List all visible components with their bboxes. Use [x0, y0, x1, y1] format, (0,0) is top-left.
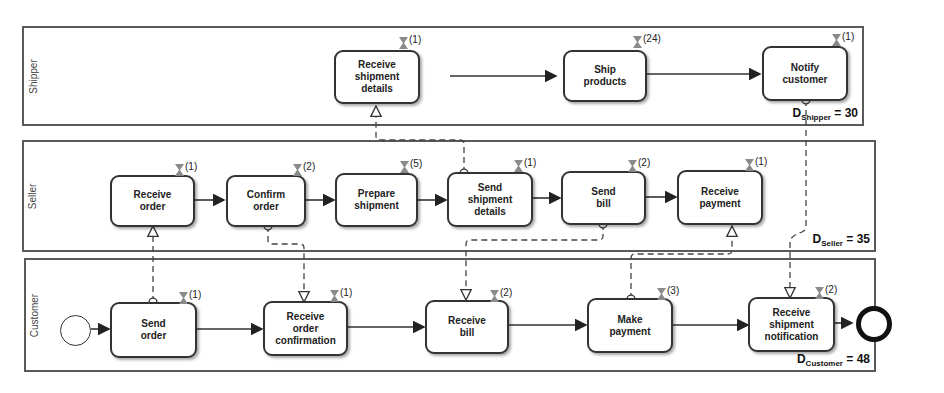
- end-event[interactable]: [856, 306, 892, 342]
- task-make-payment[interactable]: Make payment: [587, 298, 673, 353]
- timer-receive-shipment-notification: (2): [815, 287, 837, 299]
- hourglass-icon: [399, 37, 408, 49]
- timer-receive-payment: (1): [745, 159, 767, 171]
- hourglass-icon: [745, 159, 754, 171]
- hourglass-icon: [330, 290, 339, 302]
- hourglass-icon: [832, 34, 841, 46]
- timer-confirm-order: (2): [293, 164, 315, 176]
- task-ship-products[interactable]: Ship products: [563, 50, 647, 102]
- task-send-order[interactable]: Send order: [110, 302, 197, 358]
- timer-make-payment: (3): [657, 288, 679, 300]
- timer-send-bill: (2): [628, 160, 650, 172]
- task-receive-order[interactable]: Receive order: [110, 175, 195, 227]
- hourglass-icon: [514, 160, 523, 172]
- hourglass-icon: [815, 287, 824, 299]
- task-receive-order-confirmation[interactable]: Receive order confirmation: [263, 301, 348, 356]
- task-receive-payment[interactable]: Receive payment: [677, 170, 763, 225]
- start-event[interactable]: [60, 315, 91, 346]
- task-confirm-order[interactable]: Confirm order: [226, 175, 306, 227]
- timer-receive-order: (1): [175, 164, 197, 176]
- timer-receive-order-confirmation: (1): [330, 290, 352, 302]
- hourglass-icon: [633, 36, 642, 48]
- hourglass-icon: [179, 292, 188, 304]
- hourglass-icon: [293, 164, 302, 176]
- timer-ship-products: (24): [633, 36, 661, 48]
- hourglass-icon: [400, 161, 409, 173]
- timer-send-shipment-details: (1): [514, 160, 536, 172]
- hourglass-icon: [490, 290, 499, 302]
- hourglass-icon: [628, 160, 637, 172]
- task-receive-bill[interactable]: Receive bill: [425, 300, 509, 354]
- task-prepare-shipment[interactable]: Prepare shipment: [335, 173, 418, 227]
- timer-notify-customer: (1): [832, 34, 854, 46]
- task-receive-shipment-details[interactable]: Receive shipment details: [334, 50, 420, 104]
- timer-receive-shipment-details: (1): [399, 37, 421, 49]
- task-notify-customer[interactable]: Notify customer: [762, 46, 848, 101]
- hourglass-icon: [657, 288, 666, 300]
- hourglass-icon: [175, 164, 184, 176]
- task-receive-shipment-notification[interactable]: Receive shipment notification: [748, 297, 835, 352]
- task-send-bill[interactable]: Send bill: [561, 171, 646, 225]
- task-send-shipment-details[interactable]: Send shipment details: [447, 172, 533, 227]
- timer-send-order: (1): [179, 292, 201, 304]
- timer-prepare-shipment: (5): [400, 161, 422, 173]
- timer-receive-bill: (2): [490, 290, 512, 302]
